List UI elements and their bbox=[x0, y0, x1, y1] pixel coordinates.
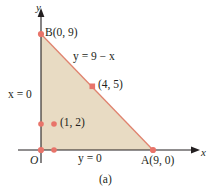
point-marker-B-0-9 bbox=[38, 31, 44, 37]
point-marker-4-5 bbox=[90, 84, 96, 90]
point-marker-y-axis-0-2 bbox=[38, 121, 44, 127]
point-marker-A-9-0 bbox=[150, 147, 156, 153]
constraint-label-y-equals-0: y = 0 bbox=[78, 153, 102, 165]
figure-container: y x B(0, 9) y = 9 − x (4, 5) x = 0 (1, 2… bbox=[0, 0, 214, 193]
point-label-1-2: (1, 2) bbox=[60, 117, 85, 129]
x-axis-label: x bbox=[201, 147, 206, 158]
figure-caption: (a) bbox=[99, 174, 112, 186]
vertex-label-a: A(9, 0) bbox=[141, 155, 174, 167]
origin-label: O bbox=[30, 155, 38, 167]
point-label-4-5: (4, 5) bbox=[98, 79, 123, 91]
point-marker-1-2 bbox=[51, 121, 57, 127]
point-marker-origin bbox=[38, 147, 44, 153]
y-axis-label: y bbox=[36, 2, 41, 13]
point-marker-x-axis-1-0 bbox=[51, 147, 57, 153]
line-equation-label: y = 9 − x bbox=[73, 51, 115, 63]
vertex-label-b: B(0, 9) bbox=[45, 27, 78, 39]
constraint-label-x-equals-0: x = 0 bbox=[8, 89, 32, 101]
x-axis-arrowhead bbox=[191, 147, 200, 154]
